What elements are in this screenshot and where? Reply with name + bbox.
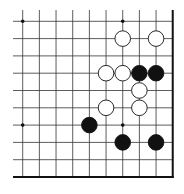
white-stone (132, 83, 148, 99)
white-stone (132, 100, 148, 116)
black-stone (132, 65, 148, 81)
black-stone (115, 135, 131, 151)
black-stone (148, 65, 164, 81)
white-stone (148, 31, 164, 47)
white-stone (98, 100, 114, 116)
white-stone (115, 65, 131, 81)
white-stone (98, 65, 114, 81)
black-stone (82, 117, 98, 133)
star-point (121, 123, 125, 127)
go-board (0, 0, 184, 194)
black-stone (148, 135, 164, 151)
star-point (21, 20, 25, 24)
star-point (21, 123, 25, 127)
star-point (121, 20, 125, 24)
white-stone (115, 31, 131, 47)
